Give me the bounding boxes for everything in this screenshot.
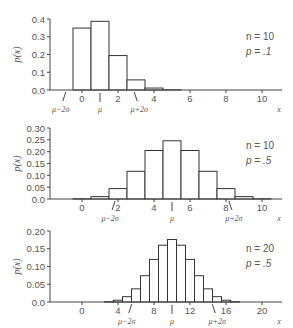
mu-minus-2sigma-label: μ−2σ	[100, 214, 119, 223]
x-tick-label: 20	[257, 305, 268, 316]
x-tick-label: 8	[223, 93, 228, 104]
histogram-bar	[109, 56, 127, 90]
p-parameter-label: p = .5	[245, 258, 272, 269]
mu-label: μ	[169, 317, 174, 326]
histogram-bar	[199, 171, 217, 199]
histogram-bar	[141, 276, 150, 302]
x-tick-label: 6	[187, 202, 192, 213]
x-tick-label: 0	[79, 305, 84, 316]
y-tick-label: 0.3	[32, 31, 45, 42]
mu-plus-2sigma-label: μ+2σ	[130, 105, 149, 114]
y-tick-label: 0.30	[27, 123, 46, 134]
y-tick-label: 0.15	[27, 158, 46, 169]
x-tick-label: 10	[257, 93, 268, 104]
mu-plus-2sigma-marker	[212, 304, 215, 313]
n-parameter-label: n = 20	[246, 243, 275, 254]
x-tick-label: 6	[187, 93, 192, 104]
histogram-bar	[132, 289, 141, 302]
y-tick-label: 0.05	[27, 182, 46, 193]
x-axis-label: x	[276, 214, 281, 223]
histogram-bar	[181, 150, 199, 199]
y-tick-label: 0.20	[27, 226, 46, 237]
histogram-bar	[150, 259, 159, 302]
histogram-bar	[123, 297, 132, 302]
y-tick-label: 0.15	[27, 243, 46, 254]
y-tick-label: 0.10	[27, 261, 46, 272]
histogram-bar	[73, 28, 91, 90]
y-axis-label: p(x)	[11, 155, 23, 173]
y-tick-label: 0.0	[32, 297, 45, 308]
histogram-bar	[213, 297, 222, 302]
x-tick-label: 16	[221, 305, 232, 316]
histogram-bar	[109, 189, 127, 199]
histogram-bar	[195, 276, 204, 302]
histogram-bar	[217, 189, 235, 199]
chart-panel-n20-p05: 0.00.050.100.150.20048121620p(x)xμμ−2σμ+…	[11, 226, 282, 327]
y-tick-label: 0.0	[32, 194, 45, 205]
mu-label: μ	[169, 214, 174, 223]
histogram-bar	[204, 289, 213, 302]
mu-plus-2sigma-label: μ+2σ	[208, 317, 227, 326]
mu-minus-2sigma-label: μ−2σ	[51, 105, 70, 114]
y-tick-label: 0.0	[32, 85, 45, 96]
p-parameter-label: p = .1	[245, 46, 271, 57]
histogram-bar	[168, 240, 177, 302]
y-tick-label: 0.05	[27, 279, 46, 290]
chart-panel-n10-p01: 0.00.10.20.30.40246810p(x)xμμ−2σμ+2σn = …	[11, 14, 282, 115]
x-tick-label: 0	[79, 93, 84, 104]
x-tick-label: 8	[151, 305, 156, 316]
histogram-bar	[127, 80, 145, 90]
n-parameter-label: n = 10	[246, 140, 275, 151]
x-axis-label: x	[276, 105, 281, 114]
x-tick-label: 12	[185, 305, 196, 316]
p-parameter-label: p = .5	[245, 155, 272, 166]
x-tick-label: 0	[79, 202, 84, 213]
mu-minus-2sigma-marker	[63, 92, 66, 101]
y-tick-label: 0.20	[27, 146, 46, 157]
x-tick-label: 4	[151, 93, 156, 104]
y-axis-label: p(x)	[11, 46, 23, 64]
chart-panel-n10-p05: 0.00.050.100.150.200.250.300246810p(x)xμ…	[11, 123, 282, 224]
histogram-bar	[91, 21, 109, 90]
histogram-bar	[177, 245, 186, 302]
x-tick-label: 8	[223, 202, 228, 213]
binomial-distributions-figure: 0.00.10.20.30.40246810p(x)xμμ−2σμ+2σn = …	[0, 0, 293, 328]
x-axis-label: x	[276, 317, 281, 326]
x-tick-label: 10	[257, 202, 268, 213]
mu-minus-2sigma-label: μ−2σ	[117, 317, 136, 326]
x-tick-label: 4	[115, 305, 120, 316]
y-tick-label: 0.4	[32, 14, 45, 25]
mu-minus-2sigma-marker	[129, 304, 132, 313]
x-tick-label: 2	[115, 93, 120, 104]
y-tick-label: 0.10	[27, 170, 46, 181]
y-tick-label: 0.1	[32, 67, 45, 78]
y-tick-label: 0.2	[32, 49, 45, 60]
histogram-bar	[145, 150, 163, 199]
histogram-bar	[163, 141, 181, 199]
x-tick-label: 4	[151, 202, 156, 213]
histogram-bar	[127, 171, 145, 199]
y-axis-label: p(x)	[11, 258, 23, 276]
mu-plus-2sigma-label: μ+2σ	[224, 214, 243, 223]
y-tick-label: 0.25	[27, 134, 46, 145]
mu-plus-2sigma-marker	[229, 201, 232, 210]
mu-label: μ	[97, 105, 102, 114]
histogram-bar	[159, 245, 168, 302]
mu-plus-2sigma-marker	[134, 92, 137, 101]
x-tick-label: 2	[115, 202, 120, 213]
histogram-bar	[186, 259, 195, 302]
n-parameter-label: n = 10	[246, 31, 275, 42]
